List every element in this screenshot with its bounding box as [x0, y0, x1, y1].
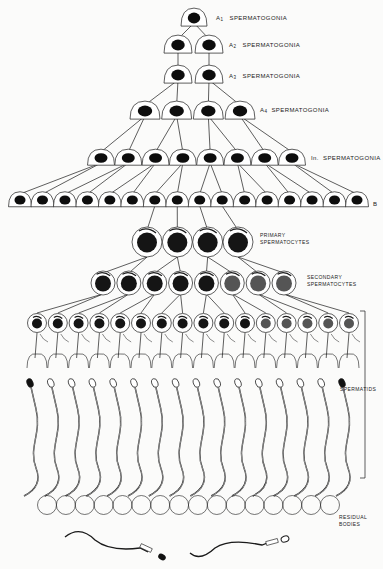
lineage-line [237, 163, 267, 194]
flagellum [232, 387, 246, 496]
spermatozoon-midpiece [266, 539, 279, 546]
spermatid-head [67, 378, 76, 389]
residual-body [226, 496, 245, 515]
cytoplasm-lobe [89, 354, 109, 368]
residual-body [170, 496, 189, 515]
lineage-line [206, 257, 207, 273]
residual-body [151, 496, 170, 515]
cytoplasm-lobe [48, 354, 68, 368]
flagellum-inner [294, 387, 308, 496]
nucleus [228, 233, 248, 253]
lineage-line [208, 257, 233, 273]
label-secondary-spermatocytes: SECONDARYSPERMATOCYTES [307, 274, 356, 288]
tail-sprout [40, 334, 48, 342]
residual-body [132, 496, 151, 515]
label-a1-spermatogonia: A1 SPERMATOGONIA [216, 15, 287, 23]
cytoplasmic-bridge [35, 333, 37, 358]
nucleus [323, 319, 333, 329]
in-spermatogonium [115, 149, 142, 165]
spermatid-head [254, 378, 263, 389]
nucleus [178, 319, 188, 329]
tail-sprout [269, 334, 277, 342]
cytoplasmic-bridge [77, 333, 79, 358]
cytoplasm-lobe [193, 354, 213, 368]
tail-sprout [186, 334, 194, 342]
nucleus [121, 276, 137, 292]
lineage-line [209, 80, 240, 105]
cytoplasm-lobe [27, 354, 47, 368]
residual-body [283, 496, 302, 515]
lineage-line [292, 163, 335, 194]
tail-sprout [144, 334, 152, 342]
b-spermatogonium [233, 192, 256, 207]
a4-spermatogonium [130, 101, 160, 119]
spermatid-head [275, 378, 284, 389]
flagellum [170, 387, 184, 496]
spermatid-head [150, 378, 159, 389]
flagellum-inner [232, 387, 246, 496]
cytoplasmic-bridge [305, 333, 307, 358]
cytoplasmic-bridge [285, 333, 287, 358]
flagellum [211, 387, 225, 496]
nucleus [147, 276, 163, 292]
b-spermatogonium [323, 192, 346, 207]
cytoplasmic-bridge [201, 333, 203, 358]
b-spermatogonium [31, 192, 54, 207]
flagellum [253, 387, 267, 496]
nucleus [261, 319, 271, 329]
tail-sprout [248, 334, 256, 342]
spermatozoon-head [280, 535, 290, 543]
flagellum-inner [149, 387, 163, 496]
lineage-line [232, 294, 266, 313]
in-spermatogonium [88, 149, 115, 165]
tail-sprout [352, 334, 360, 342]
flagellum-inner [128, 387, 142, 496]
spermatid-head [109, 378, 118, 389]
b-spermatogonium [76, 192, 99, 207]
flagellum [128, 387, 142, 496]
cytoplasmic-bridge [181, 333, 183, 358]
flagellum-inner [170, 387, 184, 496]
lineage-line [200, 163, 210, 194]
spermatogenesis-diagram: A1 SPERMATOGONIA A2 SPERMATOGONIA A3 SPE… [0, 0, 383, 569]
nucleus [136, 319, 146, 329]
spermatid-head [46, 378, 55, 389]
residual-body [94, 496, 113, 515]
flagellum-inner [315, 387, 329, 496]
tail-sprout [206, 334, 214, 342]
spermatid-head [130, 378, 139, 389]
label-b-spermatogonia: B [373, 201, 377, 208]
in-spermatogonium [169, 149, 196, 165]
lineage-line [208, 116, 210, 152]
b-spermatogonium [188, 192, 211, 207]
b-spermatogonium [346, 192, 369, 207]
flagellum-inner [107, 387, 121, 496]
nucleus [224, 276, 240, 292]
spermatozoon-tail [65, 532, 148, 552]
in-spermatogonium [251, 149, 278, 165]
label-a4-spermatogonia: A4 SPERMATOGONIA [260, 107, 329, 115]
nucleus [282, 319, 292, 329]
flagellum [86, 387, 100, 496]
b-spermatogonium [98, 192, 121, 207]
flagellum-inner [45, 387, 59, 496]
nucleus [276, 276, 292, 292]
spermatid-head [234, 378, 243, 389]
cytoplasm-lobe [152, 354, 172, 368]
tail-sprout [61, 334, 69, 342]
lineage-line [238, 257, 258, 273]
flagellum [107, 387, 121, 496]
b-spermatogonium [166, 192, 189, 207]
lineage-line [147, 206, 155, 230]
lineage-line [155, 257, 178, 273]
lineage-line [240, 116, 292, 152]
spermatid-head [171, 378, 180, 389]
nucleus [137, 233, 157, 253]
spermatozoon-tail [190, 542, 270, 557]
nucleus [302, 319, 312, 329]
nucleus [167, 233, 187, 253]
spermatid-head [192, 378, 201, 389]
cytoplasmic-bridge [264, 333, 266, 358]
in-spermatogonium [224, 149, 251, 165]
a2-spermatogonium [195, 35, 223, 53]
